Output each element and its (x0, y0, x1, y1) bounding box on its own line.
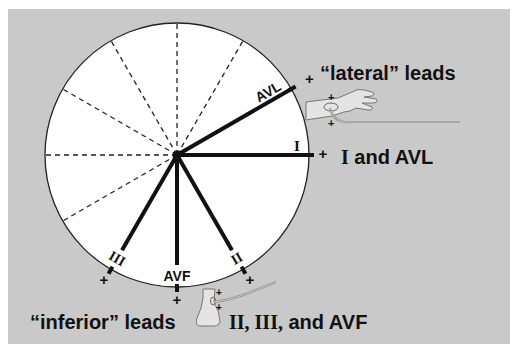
lateral-leads-serif: I (341, 146, 349, 168)
leg-plus-bottom: + (216, 302, 222, 313)
lateral-leads-title: “lateral” leads (320, 62, 456, 84)
lead-plus-iii: + (100, 271, 109, 288)
lead-plus-avf: + (173, 291, 182, 308)
lead-label-avf: AVF (164, 268, 191, 284)
lead-plus-ii: + (246, 271, 255, 288)
arm-plus-bottom: + (328, 117, 334, 129)
lead-label-i: I (294, 138, 300, 154)
leg-plus-top: + (216, 287, 222, 298)
hexaxial-lead-diagram: I+AVL+II+AVF+III+ + + + + “lateral” lead… (0, 0, 518, 353)
inferior-leads-list: II, III, and AVF (229, 311, 367, 333)
lateral-leads-list: I and AVL (341, 146, 433, 168)
inferior-leads-title: “inferior” leads (30, 311, 176, 333)
center-point (173, 151, 182, 160)
lateral-leads-rest: and AVL (349, 146, 433, 168)
inferior-leads-serif: II, III, (229, 311, 283, 333)
arm-plus-top: + (328, 91, 334, 103)
lead-plus-avl: + (305, 70, 314, 87)
inferior-leads-rest: and AVF (283, 311, 367, 333)
lead-plus-i: + (319, 145, 328, 162)
